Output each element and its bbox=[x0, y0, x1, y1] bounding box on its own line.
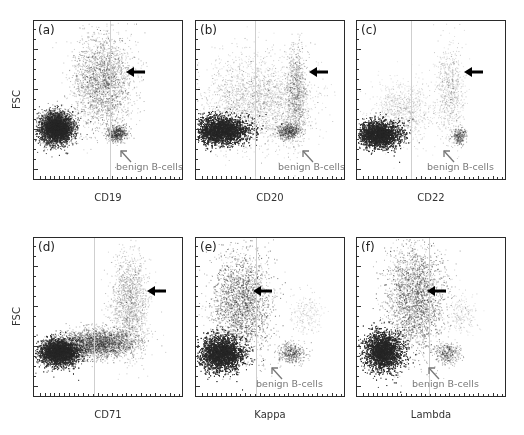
x-tick bbox=[131, 394, 132, 396]
x-tick bbox=[502, 394, 503, 396]
x-tick bbox=[216, 176, 217, 179]
x-tick bbox=[78, 177, 79, 179]
x-tick bbox=[459, 394, 460, 396]
scatter-panel-f: (f)benign B-cells bbox=[356, 237, 506, 397]
x-tick bbox=[416, 177, 417, 179]
x-tick bbox=[336, 394, 337, 396]
x-tick bbox=[473, 394, 474, 396]
y-tick bbox=[357, 276, 359, 277]
y-tick bbox=[357, 316, 359, 317]
x-tick bbox=[212, 176, 213, 179]
x-tick bbox=[401, 177, 402, 179]
x-tick bbox=[421, 393, 422, 396]
y-tick bbox=[357, 376, 359, 377]
y-tick bbox=[196, 39, 198, 40]
y-tick bbox=[34, 316, 36, 317]
x-tick bbox=[264, 394, 265, 396]
x-tick bbox=[236, 176, 237, 179]
gate-line bbox=[94, 238, 95, 396]
x-tick bbox=[373, 176, 374, 179]
x-tick bbox=[250, 177, 251, 179]
x-tick bbox=[454, 394, 455, 396]
x-tick bbox=[332, 393, 333, 396]
x-tick bbox=[440, 177, 441, 179]
x-tick bbox=[212, 393, 213, 396]
x-tick bbox=[332, 176, 333, 179]
x-tick bbox=[459, 177, 460, 179]
panel-label: (d) bbox=[38, 240, 55, 254]
x-tick bbox=[231, 393, 232, 396]
scatter-dots bbox=[357, 21, 505, 179]
y-tick bbox=[196, 256, 198, 257]
scatter-panel-e: (e)benign B-cells bbox=[195, 237, 345, 397]
x-tick bbox=[98, 176, 99, 179]
y-tick bbox=[34, 149, 36, 150]
x-tick bbox=[221, 176, 222, 179]
y-tick bbox=[34, 366, 36, 367]
x-tick bbox=[221, 393, 222, 396]
x-tick bbox=[40, 176, 41, 179]
x-tick bbox=[469, 177, 470, 179]
x-tick bbox=[488, 177, 489, 179]
y-tick bbox=[357, 39, 359, 40]
x-tick bbox=[155, 393, 156, 396]
x-tick bbox=[327, 394, 328, 396]
x-tick bbox=[284, 177, 285, 179]
y-tick bbox=[357, 356, 359, 357]
left-arrow-icon bbox=[253, 286, 273, 296]
x-tick bbox=[160, 177, 161, 179]
x-tick bbox=[341, 177, 342, 179]
x-tick bbox=[308, 177, 309, 179]
y-tick bbox=[34, 356, 36, 357]
x-tick bbox=[59, 176, 60, 179]
y-tick bbox=[357, 306, 361, 307]
x-tick bbox=[308, 394, 309, 396]
gate-line bbox=[256, 238, 257, 396]
x-tick bbox=[264, 177, 265, 179]
x-tick bbox=[303, 393, 304, 396]
x-tick bbox=[312, 394, 313, 396]
x-tick bbox=[165, 177, 166, 179]
y-tick bbox=[34, 266, 38, 267]
x-tick bbox=[236, 393, 237, 396]
x-tick bbox=[464, 393, 465, 396]
x-tick bbox=[226, 393, 227, 396]
x-tick bbox=[126, 176, 127, 179]
x-tick bbox=[435, 176, 436, 179]
panel-label: (e) bbox=[200, 240, 217, 254]
x-axis-label: Lambda bbox=[356, 409, 506, 420]
x-tick bbox=[274, 393, 275, 396]
x-tick bbox=[445, 177, 446, 179]
x-tick bbox=[454, 177, 455, 179]
x-tick bbox=[250, 394, 251, 396]
x-tick bbox=[478, 393, 479, 396]
x-tick bbox=[336, 177, 337, 179]
left-arrow-icon bbox=[147, 286, 167, 296]
y-tick bbox=[357, 286, 359, 287]
y-tick bbox=[357, 69, 359, 70]
x-tick bbox=[102, 394, 103, 396]
y-tick bbox=[34, 119, 36, 120]
x-tick bbox=[240, 394, 241, 396]
x-tick bbox=[74, 393, 75, 396]
gate-line bbox=[255, 21, 256, 179]
x-tick bbox=[216, 393, 217, 396]
x-tick bbox=[382, 393, 383, 396]
x-tick bbox=[136, 394, 137, 396]
y-tick bbox=[34, 59, 36, 60]
y-tick bbox=[196, 29, 198, 30]
y-tick bbox=[357, 386, 361, 387]
x-tick bbox=[112, 176, 113, 179]
x-tick bbox=[107, 394, 108, 396]
x-tick bbox=[322, 394, 323, 396]
x-tick bbox=[435, 393, 436, 396]
x-tick bbox=[50, 393, 51, 396]
x-tick bbox=[411, 394, 412, 396]
y-tick bbox=[196, 129, 200, 130]
x-tick bbox=[245, 393, 246, 396]
x-tick bbox=[502, 177, 503, 179]
x-tick bbox=[425, 394, 426, 396]
x-tick bbox=[45, 393, 46, 396]
scatter-dots bbox=[34, 21, 182, 179]
x-tick bbox=[117, 177, 118, 179]
